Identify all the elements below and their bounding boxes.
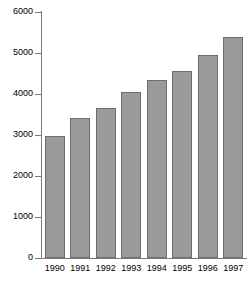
y-axis-tick-label-text: 1000 (0, 212, 33, 221)
x-axis-tick-label: 1990 (42, 263, 68, 273)
x-axis-tick-label: 1993 (119, 263, 145, 273)
y-axis-tick-label-text: 0 (0, 253, 33, 262)
x-axis-tick-label: 1996 (195, 263, 221, 273)
x-axis-tick-label: 1995 (170, 263, 196, 273)
y-axis-tick-label-text: 2000 (0, 171, 33, 180)
y-axis-tick-label-text: 4000 (0, 89, 33, 98)
x-axis-line (41, 258, 247, 259)
y-axis-tick-label: 5000 (0, 48, 33, 57)
bar (223, 37, 243, 258)
y-axis-tick-label: 4000 (0, 89, 33, 98)
bar-chart: 0100020003000400050006000 19901991199219… (0, 0, 251, 282)
y-axis-tick-label: 0 (0, 253, 33, 262)
y-axis-tick-label: 1000 (0, 212, 33, 221)
bar (121, 92, 141, 258)
x-axis-tick-label: 1991 (68, 263, 94, 273)
y-axis-tick-label-text: 6000 (0, 7, 33, 16)
y-axis-tick-label: 3000 (0, 130, 33, 139)
y-axis-tick-label-text: 3000 (0, 130, 33, 139)
y-axis-tick-label-text: 5000 (0, 48, 33, 57)
x-axis-tick-label: 1997 (221, 263, 247, 273)
plot-area (42, 12, 246, 258)
y-axis-tick-label: 2000 (0, 171, 33, 180)
bar (147, 80, 167, 258)
bar (198, 55, 218, 258)
bar (45, 136, 65, 258)
x-axis-tick-label: 1994 (144, 263, 170, 273)
y-axis-tick-label: 6000 (0, 7, 33, 16)
bar (172, 71, 192, 258)
x-axis-tick-label: 1992 (93, 263, 119, 273)
bar (96, 108, 116, 258)
bar (70, 118, 90, 258)
